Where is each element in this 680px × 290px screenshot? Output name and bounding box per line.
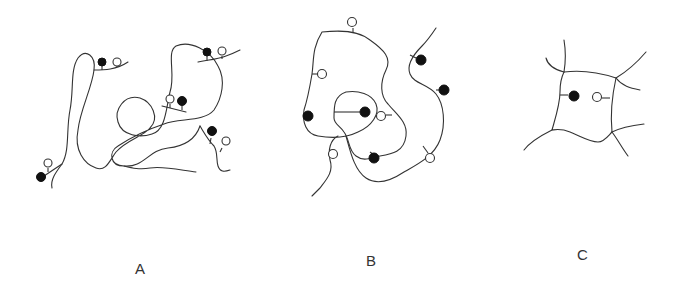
panel-c-strand-top-left	[564, 40, 566, 72]
stem	[423, 146, 428, 153]
open-pendant	[44, 159, 52, 167]
filled-pendant	[369, 153, 379, 163]
panel-c-label: C	[577, 246, 588, 263]
open-pendant	[426, 154, 435, 163]
open-pendant	[222, 137, 230, 145]
panel-a-chain	[52, 44, 223, 188]
panel-c-strand-bottom-right	[612, 124, 644, 132]
filled-pendant	[416, 55, 426, 65]
open-pendant	[377, 112, 386, 121]
panel-c-strand-left	[546, 58, 564, 72]
panel-b-chain-tail	[312, 136, 338, 196]
filled-pendant	[569, 91, 579, 101]
filled-pendant	[208, 127, 217, 136]
open-pendant	[166, 95, 174, 103]
panel-c-cell	[552, 71, 616, 142]
open-pendant	[593, 93, 602, 102]
panel-c-strand-bottom	[612, 132, 628, 156]
filled-pendant	[203, 48, 211, 56]
panel-b	[303, 18, 449, 197]
open-pendant	[348, 18, 357, 27]
panel-b-chain-outer	[304, 31, 407, 159]
panel-a	[37, 44, 241, 188]
filled-pendant	[37, 173, 46, 182]
stem	[220, 148, 222, 152]
panel-a-label: A	[135, 260, 145, 277]
open-pendant	[218, 47, 226, 55]
open-pendant	[329, 150, 338, 159]
panel-c-strand-bottom-left	[524, 130, 552, 150]
panel-c-strand-top-right	[616, 52, 646, 78]
panel-c-strand-right	[616, 78, 640, 90]
panel-a-chain-tail	[124, 166, 196, 172]
open-pendant	[113, 58, 121, 66]
open-pendant	[318, 70, 327, 79]
filled-pendant	[178, 97, 187, 106]
filled-pendant	[303, 111, 313, 121]
filled-pendant	[439, 85, 449, 95]
panel-c	[524, 40, 646, 156]
filled-pendant	[98, 58, 106, 66]
panel-b-label: B	[366, 252, 376, 269]
filled-pendant	[360, 107, 370, 117]
